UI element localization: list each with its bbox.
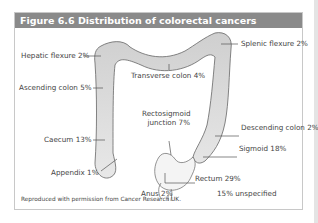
label-caecum: Caecum 13%	[44, 135, 92, 144]
label-rectum: Rectum 29%	[195, 174, 241, 183]
leader-rectosigmoid	[169, 141, 171, 155]
label-descending-colon: Descending colon 2%	[241, 123, 318, 132]
page-edge	[314, 0, 318, 223]
label-appendix: Appendix 1%	[51, 168, 99, 177]
label-hepatic-flexure: Hepatic flexure 2%	[21, 51, 89, 60]
rectum-shape	[155, 153, 195, 190]
figure-box: Figure 6.6 Distribution of colorectal ca…	[14, 12, 303, 210]
label-splenic-flexure: Splenic flexure 2%	[241, 39, 308, 48]
label-sigmoid: Sigmoid 18%	[239, 144, 286, 153]
label-unspecified: 15% unspecified	[217, 189, 277, 198]
label-rectosigmoid-line1: Rectosigmoid	[142, 109, 191, 118]
label-rectosigmoid: Rectosigmoid junction 7%	[142, 109, 191, 127]
figure-credit: Reproduced with permission from Cancer R…	[21, 196, 181, 202]
label-rectosigmoid-line2: junction 7%	[142, 118, 191, 127]
label-ascending-colon: Ascending colon 5%	[19, 83, 92, 92]
label-transverse-colon: Transverse colon 4%	[131, 71, 205, 80]
